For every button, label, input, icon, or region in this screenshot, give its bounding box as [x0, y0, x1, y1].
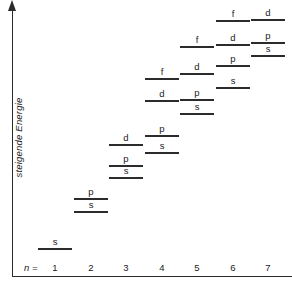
energy-level-label: d [109, 132, 143, 143]
energy-level-line [216, 87, 250, 89]
energy-level-line [216, 65, 250, 67]
energy-level-label: p [109, 153, 143, 164]
x-tick-label-7: 7 [257, 262, 279, 273]
x-tick-label-3: 3 [115, 262, 137, 273]
energy-level-label: f [180, 34, 214, 45]
energy-level-label: s [251, 43, 285, 54]
x-tick-label-6: 6 [222, 262, 244, 273]
energy-level-label: s [38, 236, 72, 247]
energy-level-label: d [180, 61, 214, 72]
energy-level-label: s [145, 140, 179, 151]
energy-level-label: d [251, 7, 285, 18]
energy-level-label: p [251, 30, 285, 41]
x-tick-label-2: 2 [80, 262, 102, 273]
energy-level-line [251, 55, 285, 57]
x-tick-label-1: 1 [44, 262, 66, 273]
x-tick-label-5: 5 [186, 262, 208, 273]
energy-level-label: f [216, 8, 250, 19]
energy-level-label: p [216, 53, 250, 64]
energy-level-line [180, 113, 214, 115]
energy-level-label: s [216, 75, 250, 86]
energy-level-line [216, 44, 250, 46]
energy-level-line [145, 135, 179, 137]
energy-level-label: p [145, 123, 179, 134]
energy-level-line [251, 19, 285, 21]
energy-level-label: s [180, 101, 214, 112]
energy-level-line [109, 144, 143, 146]
y-axis-label: steigende Energie [13, 68, 24, 208]
energy-level-label: d [145, 88, 179, 99]
energy-level-line [38, 248, 72, 250]
energy-level-label: f [145, 66, 179, 77]
energy-level-line [145, 100, 179, 102]
energy-level-line [180, 73, 214, 75]
energy-level-diagram: steigende Energie n = 1234567 spsdpsfdps… [0, 0, 292, 285]
energy-level-line [180, 46, 214, 48]
energy-level-label: d [216, 32, 250, 43]
energy-level-label: p [74, 186, 108, 197]
energy-level-line [145, 78, 179, 80]
energy-level-line [74, 211, 108, 213]
x-axis-label: n = [24, 262, 37, 273]
energy-level-line [216, 20, 250, 22]
x-axis-line [12, 276, 292, 277]
x-tick-label-4: 4 [151, 262, 173, 273]
energy-level-label: p [180, 87, 214, 98]
energy-level-label: s [109, 165, 143, 176]
energy-level-line [109, 177, 143, 179]
energy-level-label: s [74, 199, 108, 210]
energy-level-line [145, 152, 179, 154]
